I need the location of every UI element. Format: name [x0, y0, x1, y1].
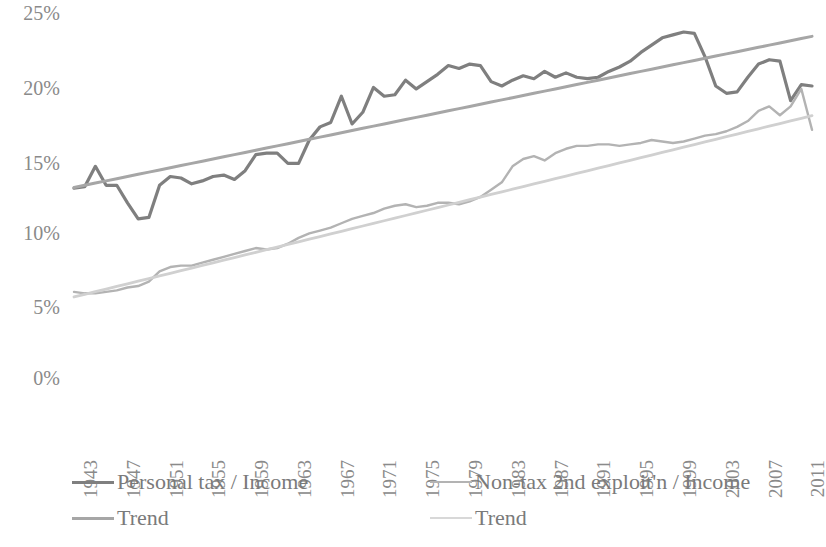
series-line	[74, 89, 812, 293]
legend-swatch-icon	[430, 481, 472, 483]
legend-item-personal-tax: Personal tax / Income	[72, 470, 308, 494]
y-axis-tick-label: 10%	[23, 223, 60, 243]
y-axis-tick-label: 5%	[33, 297, 60, 317]
legend-item-non-tax-trend: Trend	[430, 506, 527, 530]
chart-legend: Personal tax / Income Trend Non-tax 2nd …	[0, 466, 826, 547]
legend-label: Trend	[475, 506, 527, 530]
y-axis-tick-label: 20%	[23, 78, 60, 98]
y-axis-tick-label: 0%	[33, 368, 60, 388]
series-line	[74, 36, 812, 187]
legend-swatch-icon	[72, 481, 114, 484]
legend-item-personal-tax-trend: Trend	[72, 506, 169, 530]
legend-swatch-icon	[430, 517, 472, 519]
x-axis: 1943194719511955195919631967197119751979…	[66, 386, 826, 462]
legend-item-non-tax: Non-tax 2nd exploit'n / Income	[430, 470, 750, 494]
chart-figure: 25% 20% 15% 10% 5% 0% 194319471951195519…	[0, 0, 826, 547]
legend-swatch-icon	[72, 517, 114, 520]
y-axis-tick-label: 25%	[23, 3, 60, 23]
series-line	[74, 116, 812, 297]
legend-label: Personal tax / Income	[117, 470, 308, 494]
y-axis: 25% 20% 15% 10% 5% 0%	[0, 0, 66, 400]
series-canvas	[66, 6, 826, 381]
legend-label: Non-tax 2nd exploit'n / Income	[475, 470, 750, 494]
legend-label: Trend	[117, 506, 169, 530]
y-axis-tick-label: 15%	[23, 153, 60, 173]
plot-area	[66, 6, 826, 381]
